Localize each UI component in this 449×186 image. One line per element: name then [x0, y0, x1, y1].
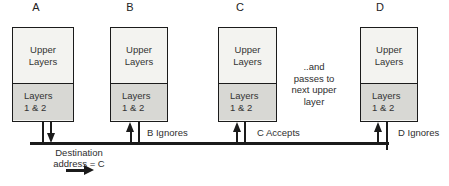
upper-layers-text-line1: Upper — [235, 44, 261, 56]
note-d-ignores: D Ignores — [398, 127, 439, 138]
note-b-ignores: B Ignores — [147, 127, 188, 138]
passes-note-line1: ..and — [283, 61, 345, 73]
stack-a-upper-layers-box: Upper Layers — [13, 28, 73, 83]
destination-caption-line1: Destination — [44, 147, 114, 158]
stack-a-card: Upper Layers Layers 1 & 2 — [12, 27, 74, 122]
passes-to-upper-layer-note: ..and passes to next upper layer — [283, 61, 345, 107]
stack-c-layers12-box: Layers 1 & 2 — [219, 83, 276, 120]
upper-layers-text-line2: Layers — [29, 56, 58, 68]
layers12-text-line2: 1 & 2 — [122, 102, 167, 114]
upper-layers-text-line1: Upper — [376, 44, 402, 56]
passes-note-line4: layer — [283, 96, 345, 108]
stack-a-line-left — [42, 122, 44, 143]
frame-direction-right-arrow-icon — [84, 165, 94, 175]
stack-d-line-left — [377, 131, 379, 143]
upper-layers-text-line2: Layers — [125, 56, 154, 68]
stack-c-card: Upper Layers Layers 1 & 2 — [218, 27, 277, 122]
passes-note-line3: next upper — [283, 84, 345, 96]
stack-d-label: D — [373, 1, 387, 13]
stack-a-label: A — [29, 1, 43, 13]
stack-c-upper-layers-box: Upper Layers — [219, 28, 276, 83]
protocol-stack-d: D Upper Layers Layers 1 & 2 — [360, 27, 418, 122]
stack-d-card: Upper Layers Layers 1 & 2 — [360, 27, 418, 122]
layers12-text-line1: Layers — [24, 90, 73, 102]
stack-b-upper-layers-box: Upper Layers — [111, 28, 167, 83]
upper-layers-text-line2: Layers — [375, 56, 404, 68]
layers12-text-line1: Layers — [372, 90, 417, 102]
stack-d-layers12-box: Layers 1 & 2 — [361, 83, 417, 120]
protocol-stack-c: C Upper Layers Layers 1 & 2 — [218, 27, 277, 122]
stack-a-down-arrow-icon — [47, 133, 55, 143]
layers12-text-line2: 1 & 2 — [372, 102, 417, 114]
stack-c-line-right — [244, 122, 246, 143]
layers12-text-line2: 1 & 2 — [230, 102, 276, 114]
stack-b-card: Upper Layers Layers 1 & 2 — [110, 27, 168, 122]
passes-note-line2: passes to — [283, 73, 345, 85]
upper-layers-text-line2: Layers — [233, 56, 262, 68]
stack-a-layers12-box: Layers 1 & 2 — [13, 83, 73, 120]
stack-b-line-left — [130, 131, 132, 143]
layers12-text-line1: Layers — [122, 90, 167, 102]
stack-b-layers12-box: Layers 1 & 2 — [111, 83, 167, 120]
layers12-text-line1: Layers — [230, 90, 276, 102]
stack-d-upper-layers-box: Upper Layers — [361, 28, 417, 83]
destination-caption-line2: address = C — [44, 158, 114, 169]
layers12-text-line2: 1 & 2 — [24, 102, 73, 114]
network-bus-line — [30, 142, 389, 145]
stack-c-line-left — [236, 131, 238, 143]
upper-layers-text-line1: Upper — [126, 44, 152, 56]
stack-b-line-right — [138, 122, 140, 143]
stack-d-line-right-bus-terminator — [386, 122, 388, 150]
frame-direction-arrow-shaft — [66, 169, 85, 172]
stack-c-label: C — [233, 1, 247, 13]
note-c-accepts: C Accepts — [257, 127, 300, 138]
upper-layers-text-line1: Upper — [30, 44, 56, 56]
osi-bus-diagram: A Upper Layers Layers 1 & 2 B Upper Laye… — [0, 0, 449, 186]
stack-b-label: B — [123, 1, 137, 13]
protocol-stack-a: A Upper Layers Layers 1 & 2 — [12, 27, 74, 122]
destination-address-caption: Destination address = C — [44, 147, 114, 169]
protocol-stack-b: B Upper Layers Layers 1 & 2 — [110, 27, 168, 122]
